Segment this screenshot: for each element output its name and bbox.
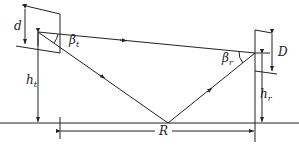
label-beta-t: βt: [69, 34, 79, 49]
beta-t-arc: [54, 34, 58, 43]
label-ht: ht: [26, 74, 37, 89]
receive-antenna-aperture: [255, 30, 277, 142]
label-beta-r: βr: [222, 52, 233, 67]
label-R: R: [159, 125, 168, 137]
label-d: d: [14, 20, 22, 32]
label-D: D: [278, 46, 288, 58]
beta-r-arc: [239, 51, 243, 63]
range-dimension: [60, 117, 254, 139]
label-hr: hr: [260, 88, 272, 103]
diagram-canvas: [0, 0, 299, 151]
